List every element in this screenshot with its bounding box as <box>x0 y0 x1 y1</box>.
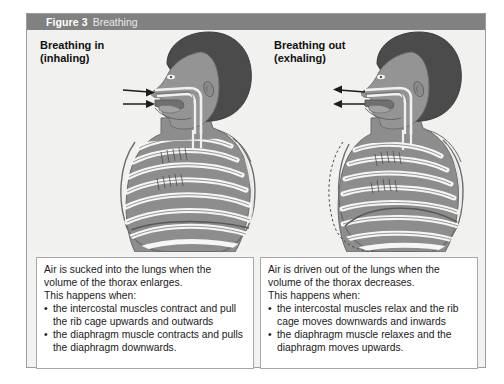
caption-intro: Air is sucked into the lungs when the vo… <box>44 263 247 289</box>
human-head-and-ribcage-inhaling-diagram <box>105 30 265 252</box>
pupil <box>380 76 382 78</box>
illustration-area: Breathing in (inhaling) Breathing out (e… <box>27 30 485 252</box>
list-item: the diaphragm muscle contracts and pulls… <box>44 328 247 354</box>
airflow-arrows-out <box>333 86 365 109</box>
panel-heading-breathing-in: Breathing in (inhaling) <box>40 39 104 64</box>
caption-bullet-list: the intercostal muscles contract and pul… <box>44 302 247 354</box>
figure-header-bar: Figure 3 Breathing <box>27 14 485 30</box>
caption-lead-in: This happens when: <box>44 289 247 302</box>
figure-frame: Figure 3 Breathing Breathing in (inhalin… <box>26 13 486 368</box>
human-head-and-ribcage-exhaling-diagram <box>309 30 474 252</box>
caption-box-breathing-in: Air is sucked into the lungs when the vo… <box>36 257 254 369</box>
caption-box-breathing-out: Air is driven out of the lungs when the … <box>260 257 478 369</box>
pupil <box>170 76 172 78</box>
list-item: the intercostal muscles relax and the ri… <box>268 302 471 328</box>
list-item: the intercostal muscles contract and pul… <box>44 302 247 328</box>
figure-title: Breathing <box>93 16 138 28</box>
caption-lead-in: This happens when: <box>268 289 471 302</box>
airflow-arrows-in <box>123 89 155 109</box>
list-item: the diaphragm muscle relaxes and the dia… <box>268 328 471 354</box>
caption-intro: Air is driven out of the lungs when the … <box>268 263 471 289</box>
caption-bullet-list: the intercostal muscles relax and the ri… <box>268 302 471 354</box>
figure-number-label: Figure 3 <box>46 16 88 28</box>
